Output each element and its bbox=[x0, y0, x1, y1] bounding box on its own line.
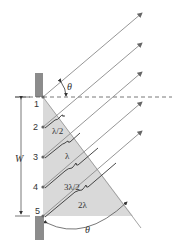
label-width: W bbox=[15, 153, 25, 164]
slit-point-5 bbox=[41, 214, 44, 217]
label-point-4: 4 bbox=[33, 182, 38, 192]
label-three-half-lambda: 3λ/2 bbox=[64, 182, 80, 192]
label-lambda: λ bbox=[65, 151, 70, 161]
label-point-2: 2 bbox=[33, 122, 38, 132]
label-point-3: 3 bbox=[33, 152, 38, 162]
label-two-lambda: 2λ bbox=[78, 200, 88, 210]
diffraction-diagram: 1 2 3 4 5 λ/2 λ 3λ/2 2λ W θ θ bbox=[0, 0, 176, 247]
slit-point-3 bbox=[41, 155, 44, 158]
angle-arc-top bbox=[61, 82, 66, 96]
slit-wall-top bbox=[35, 73, 43, 97]
label-point-5: 5 bbox=[35, 206, 40, 216]
label-half-lambda: λ/2 bbox=[52, 126, 63, 136]
label-angle-bottom: θ bbox=[85, 224, 90, 235]
slit-point-1 bbox=[41, 95, 44, 98]
slit-point-2 bbox=[41, 125, 44, 128]
label-angle-top: θ bbox=[67, 81, 72, 92]
slit-point-4 bbox=[41, 185, 44, 188]
slit-wall-bottom bbox=[35, 216, 44, 240]
label-point-1: 1 bbox=[34, 99, 39, 109]
